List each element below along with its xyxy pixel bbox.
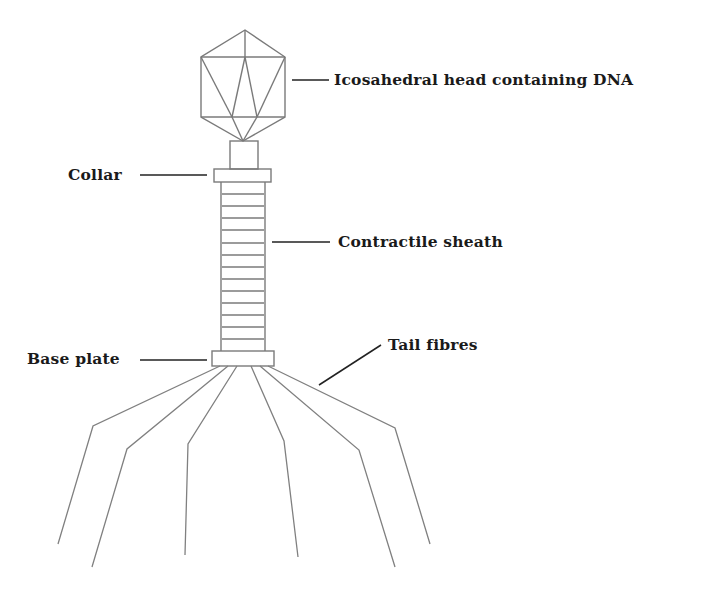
label-base-plate: Base plate [27,351,120,367]
contractile-sheath [221,182,265,351]
diagram-canvas [0,0,714,598]
tail-fibre-5 [260,366,395,567]
neck [230,141,258,169]
label-tail-fibres: Tail fibres [388,337,478,353]
bacteriophage-diagram: Icosahedral head containing DNA Collar C… [0,0,714,598]
tail-fibre-2 [92,366,228,567]
tail-fibre-4 [251,366,298,557]
label-head: Icosahedral head containing DNA [334,72,633,88]
tail-fibres [58,366,430,567]
tail-fibres-leader-line [319,345,381,385]
icosahedral-head [201,30,285,141]
collar [214,169,271,182]
base-plate [212,351,274,366]
label-contractile-sheath: Contractile sheath [338,234,503,250]
label-collar: Collar [68,167,122,183]
